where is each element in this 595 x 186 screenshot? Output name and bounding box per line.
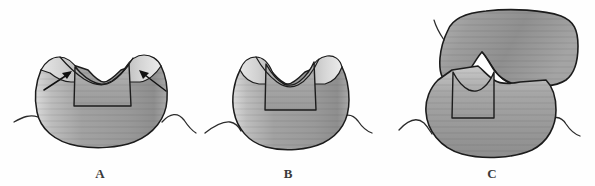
panel-label-a: A: [95, 166, 105, 181]
figure-root: A B: [0, 0, 595, 186]
panel-label-b: B: [284, 166, 293, 181]
panel-label-c: C: [487, 166, 496, 181]
dental-figure-svg: A B: [0, 0, 595, 186]
